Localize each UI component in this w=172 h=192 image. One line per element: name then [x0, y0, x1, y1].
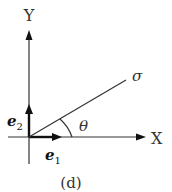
sigma-ray — [29, 80, 126, 137]
theta-arc — [60, 119, 72, 137]
y-axis-label: Y — [23, 6, 35, 25]
y-axis-arrowhead — [26, 30, 33, 40]
e1-arrowhead — [52, 133, 62, 141]
theta-label: θ — [79, 117, 88, 135]
x-axis-label: X — [151, 129, 163, 148]
x-axis-arrowhead — [136, 134, 146, 141]
e2-arrowhead — [25, 104, 33, 114]
figure-caption: (d) — [60, 174, 81, 192]
diagram-canvas: Y X σ θ e2 e1 (d) — [0, 0, 172, 192]
e2-label: e2 — [7, 112, 23, 132]
sigma-label: σ — [132, 67, 143, 85]
e1-label: e1 — [45, 146, 61, 166]
